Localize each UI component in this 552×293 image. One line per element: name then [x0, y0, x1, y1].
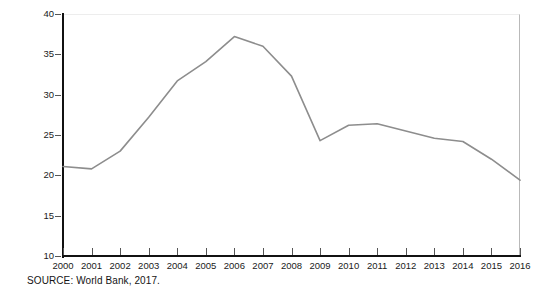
y-tick-mark — [55, 256, 61, 257]
x-tick-mark — [263, 248, 264, 255]
x-tick-mark — [377, 248, 378, 255]
y-tick-label: 30 — [18, 90, 54, 100]
x-tick-mark — [491, 248, 492, 255]
y-tick-label: 25 — [18, 130, 54, 140]
y-tick-mark — [55, 54, 61, 55]
x-tick-mark — [320, 248, 321, 255]
source-note: SOURCE: World Bank, 2017. — [27, 275, 160, 286]
y-tick-mark — [55, 135, 61, 136]
y-tick-mark — [55, 14, 61, 15]
x-tick-label: 2016 — [503, 260, 537, 271]
plot-area — [63, 14, 520, 256]
y-tick-mark — [55, 216, 61, 217]
x-tick-mark — [206, 248, 207, 255]
x-tick-mark — [120, 248, 121, 255]
y-tick-mark — [55, 95, 61, 96]
chart-figure: Percentage of GDP 10152025303540 2000200… — [0, 0, 552, 293]
x-tick-mark — [149, 248, 150, 255]
x-tick-mark — [92, 248, 93, 255]
x-tick-mark — [349, 248, 350, 255]
y-tick-label: 15 — [18, 211, 54, 221]
x-tick-mark — [463, 248, 464, 255]
x-tick-mark — [63, 248, 64, 255]
y-tick-label: 35 — [18, 49, 54, 59]
y-tick-label-text: 30 — [20, 90, 54, 100]
x-tick-mark — [177, 248, 178, 255]
y-tick-label-text: 20 — [20, 170, 54, 180]
y-tick-label-text: 15 — [20, 211, 54, 221]
y-tick-label: 40 — [18, 9, 54, 19]
y-tick-label: 20 — [18, 170, 54, 180]
x-tick-mark — [406, 248, 407, 255]
y-tick-label-text: 35 — [20, 49, 54, 59]
x-tick-mark — [434, 248, 435, 255]
y-tick-label-text: 25 — [20, 130, 54, 140]
y-tick-mark — [55, 175, 61, 176]
x-tick-mark — [234, 248, 235, 255]
y-tick-label-text: 40 — [20, 9, 54, 19]
y-axis-line — [62, 13, 64, 258]
x-axis-line — [62, 255, 521, 257]
x-tick-mark — [520, 248, 521, 255]
x-tick-mark — [292, 248, 293, 255]
